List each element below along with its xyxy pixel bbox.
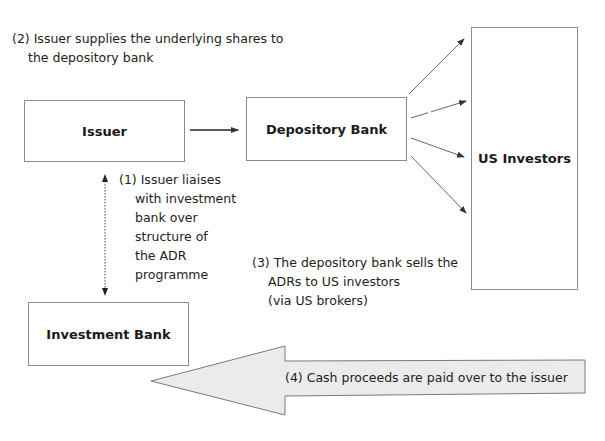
step-1-line-4: structure of bbox=[119, 227, 236, 246]
step-1-line-1: (1) Issuer liaises bbox=[119, 170, 236, 189]
step-1-line-2: with investment bbox=[119, 189, 236, 208]
step-1-line-6: programme bbox=[119, 265, 236, 284]
step-1-note: (1) Issuer liaises with investment bank … bbox=[119, 170, 236, 284]
step-3-line-2: ADRs to US investors bbox=[252, 272, 458, 291]
step-4-label: (4) Cash proceeds are paid over to the i… bbox=[285, 370, 568, 385]
issuer-investment-bank-dotted-arrow bbox=[102, 174, 108, 296]
step-3-note: (3) The depository bank sells the ADRs t… bbox=[252, 253, 458, 310]
step-3-line-1: (3) The depository bank sells the bbox=[252, 253, 458, 272]
step-3-line-3: (via US brokers) bbox=[252, 291, 458, 310]
step-1-line-5: the ADR bbox=[119, 246, 236, 265]
depository-to-investors-arrows bbox=[409, 39, 466, 213]
step-1-line-3: bank over bbox=[119, 208, 236, 227]
